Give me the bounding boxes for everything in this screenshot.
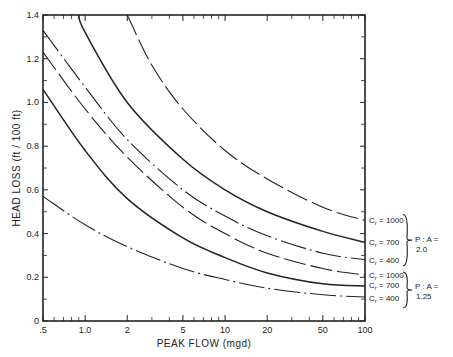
x-axis-label: PEAK FLOW (mgd) [157, 338, 252, 349]
x-tick-label: 2 [125, 325, 130, 335]
y-tick-label: 0.8 [26, 141, 39, 151]
curve-line [43, 30, 365, 259]
y-tick-label: 0.2 [26, 272, 39, 282]
curve-annotation: Cr = 700 [369, 281, 400, 291]
group-label-value: 1.25 [416, 292, 432, 301]
curve-annotations: Cr = 1000Cr = 700Cr = 400Cr = 1000Cr = 7… [369, 214, 439, 308]
head-loss-chart: .51.025102050100 00.20.40.60.81.01.21.4 … [0, 0, 453, 357]
x-tick-label: 100 [357, 325, 372, 335]
x-tick-label: 1.0 [79, 325, 92, 335]
y-tick-label: 1.2 [26, 54, 39, 64]
y-tick-label: 0.4 [26, 229, 39, 239]
group-label-value: 2.0 [416, 245, 428, 254]
y-axis-ticks: 00.20.40.60.81.01.21.4 [26, 10, 365, 326]
x-tick-label: 20 [262, 325, 272, 335]
curve-annotation: Cr = 400 [369, 294, 400, 304]
x-axis-ticks: .51.025102050100 [39, 15, 372, 335]
curve-line [43, 52, 365, 275]
curve-annotation: Cr = 400 [369, 256, 400, 266]
y-tick-label: 0.6 [26, 185, 39, 195]
group-label: P : A = [415, 235, 439, 244]
brace-icon [403, 214, 412, 265]
group-label: P : A = [415, 282, 439, 291]
curve-annotation: Cr = 700 [369, 238, 400, 248]
x-tick-label: 5 [180, 325, 185, 335]
curve-line [43, 89, 365, 286]
y-tick-label: 1.0 [26, 97, 39, 107]
x-tick-label: 10 [220, 325, 230, 335]
y-tick-label: 1.4 [26, 10, 39, 20]
brace-icon [403, 272, 412, 308]
x-tick-label: 50 [318, 325, 328, 335]
curves [43, 15, 365, 297]
curve-line [79, 15, 365, 242]
y-tick-label: 0 [34, 316, 39, 326]
curve-annotation: Cr = 1000 [369, 216, 404, 226]
curve-annotation: Cr = 1000 [369, 271, 404, 281]
curve-line [127, 15, 365, 220]
y-axis-label: HEAD LOSS (ft / 100 ft) [11, 109, 22, 226]
curve-line [43, 196, 365, 297]
x-tick-label: .5 [39, 325, 47, 335]
